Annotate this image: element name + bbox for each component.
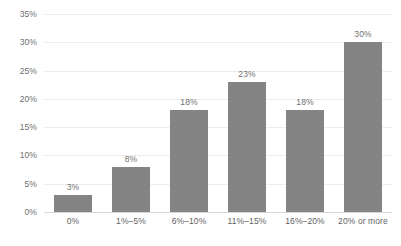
bar-slot: 23%	[218, 14, 276, 212]
bar-value-label: 23%	[238, 69, 255, 79]
bar[interactable]	[54, 195, 92, 212]
y-tick-label: 20%	[5, 94, 37, 104]
x-tick-label: 20% or more	[338, 216, 388, 226]
bar-value-label: 18%	[296, 97, 313, 107]
bar-value-label: 30%	[354, 29, 371, 39]
bar-slot: 8%	[102, 14, 160, 212]
bar[interactable]	[170, 110, 208, 212]
bar-slot: 18%	[276, 14, 334, 212]
bar-slot: 3%	[44, 14, 102, 212]
bar-value-label: 8%	[125, 154, 138, 164]
y-tick-label: 0%	[5, 207, 37, 217]
x-axis-tick-labels: 0%1%–5%6%–10%11%–15%16%–20%20% or more	[44, 216, 392, 236]
y-tick-label: 30%	[5, 37, 37, 47]
gridline-0	[44, 212, 392, 213]
bar-value-label: 3%	[67, 182, 80, 192]
bars-group: 3%8%18%23%18%30%	[44, 14, 392, 212]
x-tick-label: 11%–15%	[228, 216, 267, 226]
y-tick-label: 10%	[5, 150, 37, 160]
x-tick-label: 6%–10%	[172, 216, 207, 226]
bar[interactable]	[286, 110, 324, 212]
y-tick-label: 35%	[5, 9, 37, 19]
y-tick-label: 15%	[5, 122, 37, 132]
bar[interactable]	[228, 82, 266, 212]
x-tick-label: 1%–5%	[116, 216, 146, 226]
bar-value-label: 18%	[180, 97, 197, 107]
y-tick-label: 25%	[5, 66, 37, 76]
x-tick-label: 16%–20%	[285, 216, 324, 226]
bar-chart: 0%5%10%15%20%25%30%35% 3%8%18%23%18%30% …	[0, 0, 401, 246]
bar-slot: 30%	[334, 14, 392, 212]
bar[interactable]	[344, 42, 382, 212]
x-tick-label: 0%	[67, 216, 80, 226]
bar[interactable]	[112, 167, 150, 212]
y-tick-label: 5%	[5, 179, 37, 189]
bar-slot: 18%	[160, 14, 218, 212]
